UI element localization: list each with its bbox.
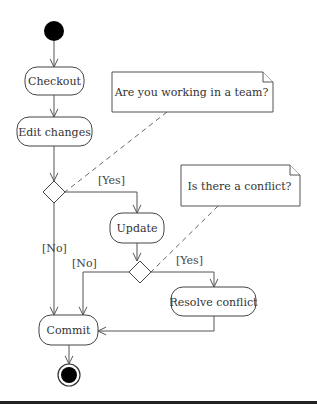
activity-diagram: CheckoutEdit changesUpdateResolve confli… <box>0 0 317 409</box>
decision-conflict <box>129 261 151 283</box>
bottom-rule <box>0 401 317 404</box>
final-node <box>58 364 80 386</box>
flow-edge-edit-changes-to-decision-team <box>50 146 58 181</box>
note-conflict: Is there a conflict? <box>181 165 300 206</box>
guard-team-yes: [Yes] <box>98 174 125 187</box>
action-edit-changes: Edit changes <box>17 117 92 146</box>
action-commit: Commit <box>39 315 98 345</box>
action-label: Resolve conflict <box>169 296 258 309</box>
flow-edge-decision-team-to-update <box>65 192 141 213</box>
note-team: Are you working in a team? <box>112 72 273 112</box>
decision-team <box>43 181 65 203</box>
action-label: Checkout <box>28 75 82 88</box>
guard-conflict-no: [No] <box>72 257 97 270</box>
flow-edge-decision-conflict-to-commit <box>79 272 129 315</box>
initial-node <box>44 21 64 41</box>
flow-edge-commit-to-end <box>65 345 73 364</box>
action-label: Update <box>117 222 158 235</box>
flow-edge-decision-conflict-to-resolve-conflict <box>151 272 218 287</box>
action-update: Update <box>110 213 164 243</box>
divider <box>0 401 317 404</box>
guard-conflict-yes: [Yes] <box>176 254 203 267</box>
note-text: Are you working in a team? <box>114 86 269 99</box>
guard-team-no: [No] <box>42 242 67 255</box>
action-resolve-conflict: Resolve conflict <box>169 287 258 316</box>
action-label: Edit changes <box>18 126 91 139</box>
flow-edge-update-to-decision-conflict <box>133 243 141 261</box>
flow-edge-checkout-to-edit-changes <box>50 95 58 117</box>
comment-notes: Are you working in a team?Is there a con… <box>112 72 300 206</box>
action-label: Commit <box>47 324 91 337</box>
flow-edge-start-to-checkout <box>50 41 58 67</box>
action-checkout: Checkout <box>25 67 84 95</box>
flow-edge-resolve-conflict-to-commit <box>98 316 214 335</box>
note-text: Is there a conflict? <box>187 180 291 193</box>
flow-edge-decision-team-to-commit <box>50 203 58 315</box>
